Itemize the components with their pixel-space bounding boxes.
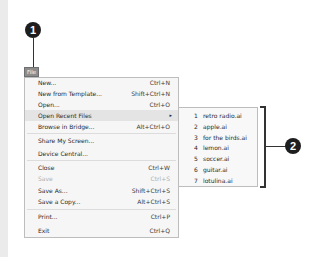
callout-1: 1 [25,22,41,38]
file-menu-button[interactable]: File [24,67,39,77]
menu-item-label: New from Template... [38,88,102,99]
bracket-vertical [264,106,266,188]
menu-item-shortcut: Alt+Ctrl+S [137,196,170,207]
recent-file-name: guitar.ai [203,164,227,175]
recent-file-name: soccer.ai [203,153,229,164]
menu-item-new[interactable]: New... Ctrl+N [25,77,178,88]
menu-item-label: Browse in Bridge... [38,121,94,132]
recent-file-number: 1 [194,110,198,121]
menu-item-print[interactable]: Print... Ctrl+P [25,211,178,222]
callout-1-leader [33,38,34,67]
recent-file-name: apple.ai [203,121,227,132]
menu-separator [27,209,176,210]
menu-item-label: Save a Copy... [38,196,80,207]
menu-item-shortcut: Ctrl+P [151,211,170,222]
recent-file-number: 2 [194,121,198,132]
bracket-bottom [260,186,266,188]
recent-file-number: 5 [194,153,198,164]
menu-item-save-a-copy[interactable]: Save a Copy... Alt+Ctrl+S [25,196,178,207]
menu-item-label: Device Central... [38,148,88,159]
menu-item-shortcut: Ctrl+W [148,162,170,173]
menu-item-label: Close [38,162,54,173]
recent-file-item[interactable]: 7 lotulina.ai [179,175,257,186]
recent-file-name: lemon.ai [203,142,229,153]
menu-item-save: Save Ctrl+S [25,173,178,184]
menu-item-new-from-template[interactable]: New from Template... Shift+Ctrl+N [25,88,178,99]
menu-item-label: Print... [38,211,58,222]
menu-item-open-recent-files[interactable]: Open Recent Files ▸ [25,110,178,121]
menu-item-shortcut: Alt+Ctrl+O [136,121,170,132]
menu-item-close[interactable]: Close Ctrl+W [25,162,178,173]
menu-item-shortcut: Shift+Ctrl+N [131,88,170,99]
menu-item-save-as[interactable]: Save As... Shift+Ctrl+S [25,185,178,196]
menu-item-label: Save [38,173,53,184]
menu-item-shortcut: Shift+Ctrl+S [132,185,170,196]
menu-item-open[interactable]: Open... Ctrl+O [25,99,178,110]
menu-item-shortcut: Ctrl+N [150,77,170,88]
recent-file-item[interactable]: 4 lemon.ai [179,142,257,153]
callout-2-leader [266,146,286,147]
menu-item-shortcut: Ctrl+S [150,173,170,184]
menu-item-label: Open... [38,99,60,110]
menu-item-browse-in-bridge[interactable]: Browse in Bridge... Alt+Ctrl+O [25,121,178,132]
menu-item-device-central[interactable]: Device Central... [25,148,178,159]
recent-file-item[interactable]: 6 guitar.ai [179,164,257,175]
recent-files-submenu: 1 retro radio.ai 2 apple.ai 3 for the bi… [178,107,258,187]
menu-item-exit[interactable]: Exit Ctrl+Q [25,225,178,236]
recent-file-item[interactable]: 5 soccer.ai [179,153,257,164]
recent-file-number: 4 [194,142,198,153]
recent-file-name: retro radio.ai [203,110,242,121]
menu-item-label: New... [38,77,56,88]
callout-2: 2 [285,138,301,154]
recent-file-number: 6 [194,164,198,175]
menu-item-shortcut: Ctrl+Q [150,225,170,236]
left-panel-strip [0,0,8,257]
menu-item-label: Open Recent Files [38,110,92,121]
menu-item-label: Exit [38,225,49,236]
menu-separator [27,133,176,134]
recent-file-item[interactable]: 2 apple.ai [179,121,257,132]
menu-separator [27,160,176,161]
submenu-arrow-icon: ▸ [169,110,172,121]
menu-item-label: Save As... [38,185,68,196]
recent-file-number: 7 [194,175,198,186]
menu-item-shortcut: Ctrl+O [150,99,170,110]
menu-item-share-my-screen[interactable]: Share My Screen... [25,135,178,146]
recent-file-item[interactable]: 1 retro radio.ai [179,110,257,121]
recent-file-name: lotulina.ai [203,175,233,186]
file-menu: New... Ctrl+N New from Template... Shift… [24,77,179,238]
menu-item-label: Share My Screen... [38,135,94,146]
